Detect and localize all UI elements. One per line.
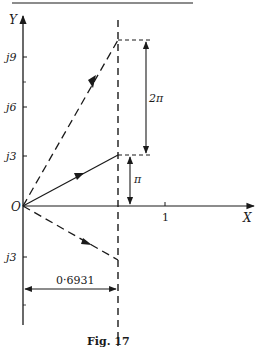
solid-vector-arrow-icon	[74, 173, 84, 180]
lower-vector-arrow-icon	[81, 238, 92, 245]
pi-label: π	[133, 173, 142, 186]
figure-caption: Fig. 17	[87, 335, 130, 348]
two-pi-label: 2π	[148, 92, 164, 105]
y-tick-label-neg-j3: j3	[3, 251, 16, 264]
origin-label: O	[11, 200, 21, 214]
y-axis-label: Y	[9, 13, 18, 27]
y-tick-label-j3: j3	[3, 150, 16, 163]
y-tick-label-j6: j6	[3, 101, 16, 114]
lower-dashed-vector	[23, 206, 118, 260]
phasor-diagram: Y X O j9 j6 j3 j3 1 2π π 0·6931 Fig. 17	[0, 0, 262, 350]
x-tick-label-1: 1	[162, 211, 169, 224]
x-axis-label: X	[242, 211, 252, 225]
x-distance-label: 0·6931	[56, 274, 95, 287]
y-tick-label-j9: j9	[3, 51, 16, 64]
